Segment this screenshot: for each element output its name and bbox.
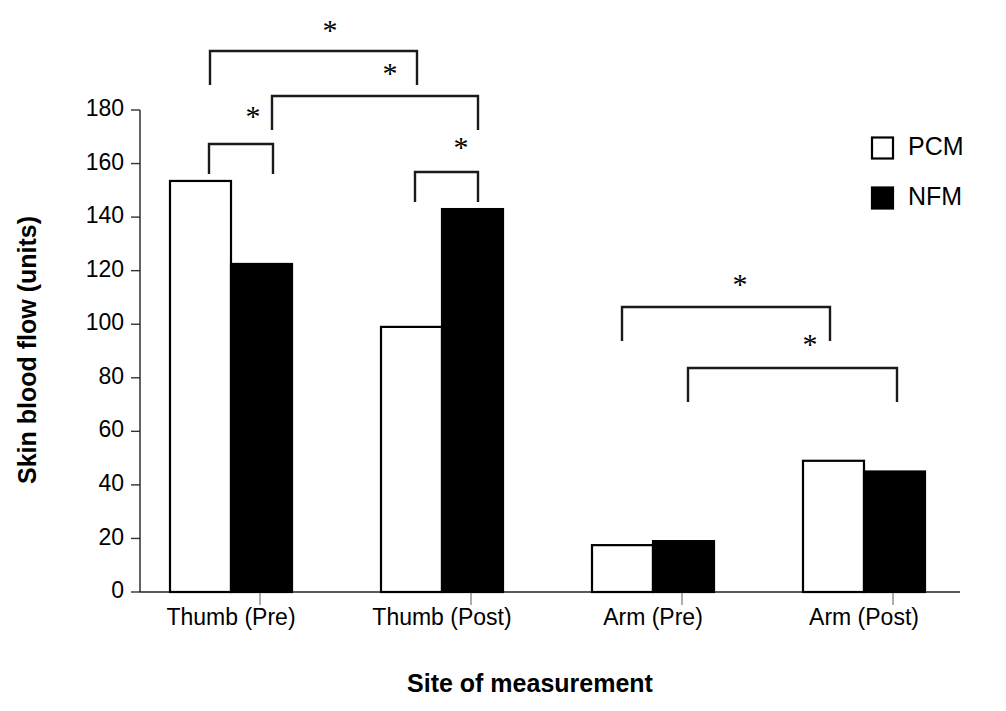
bars-group	[170, 181, 925, 592]
legend-label-pcm: PCM	[908, 132, 964, 160]
significance-asterisk: *	[454, 130, 469, 163]
legend: PCM NFM	[872, 132, 964, 210]
bar-arm-post-nfm	[864, 471, 925, 592]
y-axis-tick-label: 80	[98, 363, 124, 389]
significance-asterisk: *	[733, 267, 748, 300]
y-axis-tick-label: 140	[86, 202, 124, 228]
legend-swatch-pcm	[872, 138, 893, 159]
y-axis-title: Skin blood flow (units)	[13, 216, 41, 484]
significance-bracket	[622, 307, 830, 341]
bar-thumb-post-nfm	[442, 209, 503, 592]
x-axis-category-label: Arm (Pre)	[603, 604, 703, 630]
significance-asterisk: *	[323, 13, 338, 46]
significance-asterisk: *	[246, 99, 261, 132]
x-axis-category-label: Arm (Post)	[809, 604, 919, 630]
x-axis-category-label-group: Thumb (Pre)Thumb (Post)Arm (Pre)Arm (Pos…	[166, 604, 918, 630]
chart-canvas: 020406080100120140160180 ****** Thumb (P…	[0, 0, 1006, 711]
y-axis-tick-label: 180	[86, 95, 124, 121]
x-axis-category-label: Thumb (Pre)	[166, 604, 295, 630]
bar-arm-pre-pcm	[592, 545, 653, 592]
y-axis-tick-label: 60	[98, 416, 124, 442]
bar-chart-figure: 020406080100120140160180 ****** Thumb (P…	[0, 0, 1006, 711]
legend-label-nfm: NFM	[908, 182, 962, 210]
bar-arm-pre-nfm	[653, 541, 714, 592]
y-axis-tick-label: 40	[98, 470, 124, 496]
x-axis-category-label: Thumb (Post)	[372, 604, 511, 630]
y-axis-tick-label: 0	[111, 577, 124, 603]
significance-bracket	[688, 368, 897, 402]
significance-asterisk: *	[803, 327, 818, 360]
legend-swatch-nfm	[872, 188, 893, 209]
y-axis-tick-label: 20	[98, 524, 124, 550]
y-axis-tick-label: 120	[86, 256, 124, 282]
y-axis-tick-label: 160	[86, 149, 124, 175]
x-axis-title: Site of measurement	[407, 669, 654, 697]
significance-asterisk: *	[383, 56, 398, 89]
y-axis-tick-label: 100	[86, 309, 124, 335]
bar-thumb-post-pcm	[381, 327, 442, 592]
significance-bracket	[272, 96, 478, 130]
bar-arm-post-pcm	[803, 461, 864, 592]
x-axis-separator-group	[260, 592, 893, 605]
significance-bracket	[415, 172, 478, 202]
significance-bracket-group: ******	[209, 13, 897, 402]
bar-thumb-pre-pcm	[170, 181, 231, 592]
y-axis-tick-group: 020406080100120140160180	[86, 95, 140, 603]
significance-bracket	[209, 144, 273, 174]
bar-thumb-pre-nfm	[231, 264, 292, 592]
